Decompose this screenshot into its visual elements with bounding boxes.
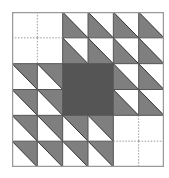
grid-cell-2-2 <box>63 64 88 90</box>
triangle-grid-diagram <box>12 12 164 167</box>
filled-square <box>88 64 113 90</box>
filled-square <box>63 90 88 116</box>
grid-canvas <box>12 12 164 167</box>
grid-cell-3-3 <box>88 90 113 116</box>
filled-square <box>88 90 113 116</box>
filled-square <box>63 64 88 90</box>
grid-cell-3-2 <box>63 90 88 116</box>
grid-cell-2-3 <box>88 64 113 90</box>
